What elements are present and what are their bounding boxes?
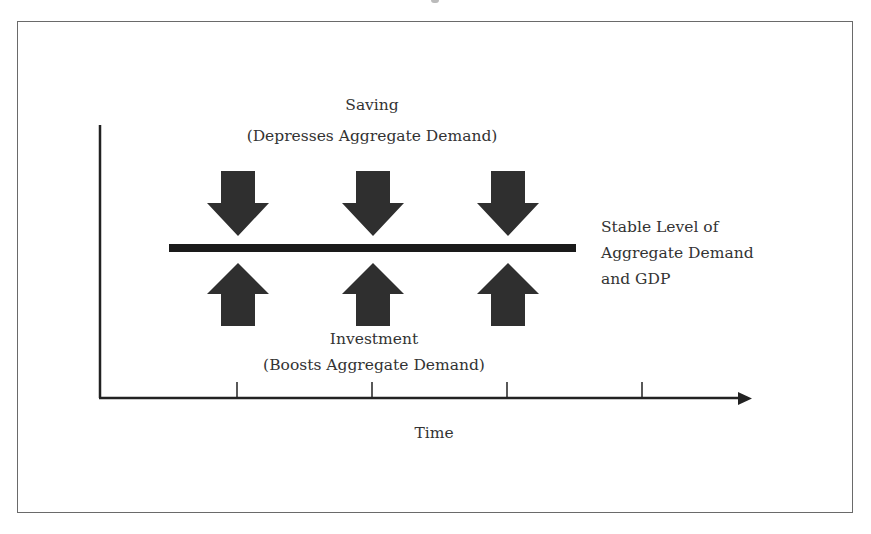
x-axis-ticks	[237, 382, 642, 398]
saving-title: Saving	[345, 94, 398, 116]
up-arrow-icon	[207, 263, 269, 326]
investment-subtitle: (Boosts Aggregate Demand)	[263, 354, 485, 376]
up-arrow-icon	[342, 263, 404, 326]
down-arrow-icon	[477, 171, 539, 236]
down-arrow-icon	[207, 171, 269, 236]
down-arrow-icon	[342, 171, 404, 236]
stable-level-label-line1: Stable Level of	[601, 216, 718, 238]
x-axis-label: Time	[414, 422, 453, 444]
up-arrow-icon	[477, 263, 539, 326]
stable-level-label-line2: Aggregate Demand	[601, 242, 754, 264]
stable-level-label-line3: and GDP	[601, 268, 670, 290]
diagram-canvas	[0, 0, 871, 534]
saving-arrows	[207, 171, 539, 236]
stable-level-bar	[169, 244, 576, 252]
investment-title: Investment	[330, 328, 418, 350]
saving-subtitle: (Depresses Aggregate Demand)	[247, 125, 498, 147]
investment-arrows	[207, 263, 539, 326]
x-axis-arrowhead-icon	[738, 392, 752, 405]
